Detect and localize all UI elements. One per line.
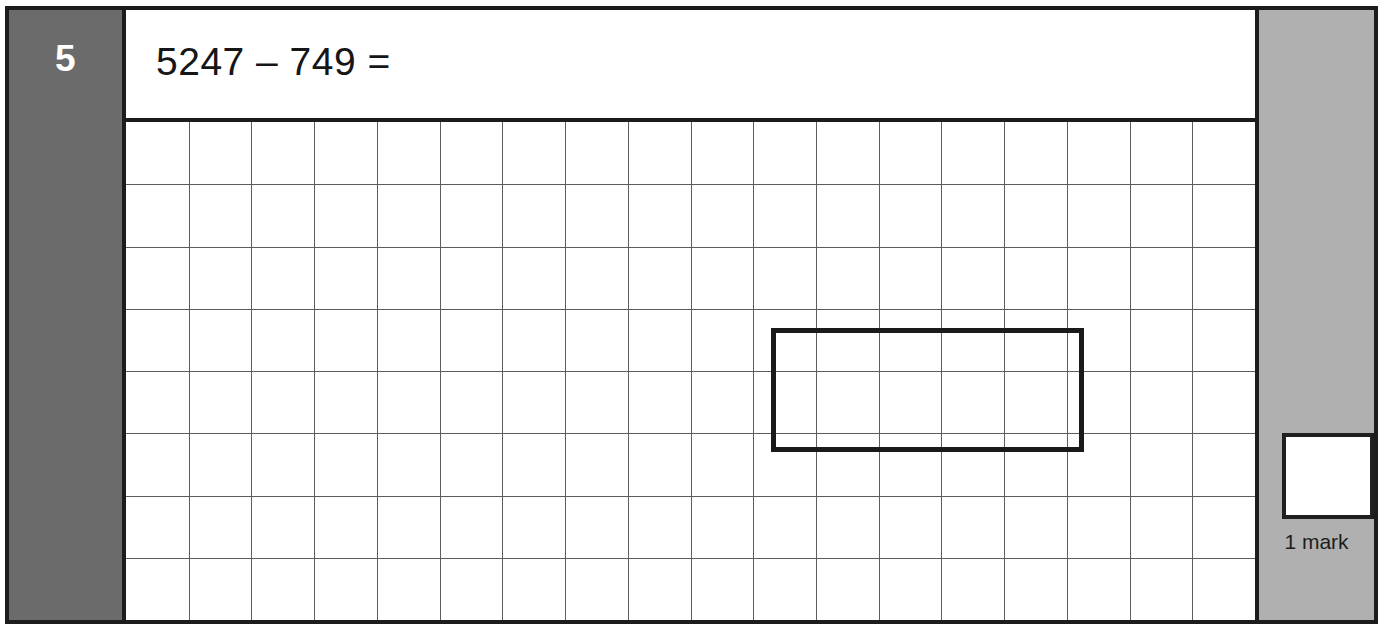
mark-label: 1 mark — [1259, 531, 1374, 552]
mark-box[interactable] — [1282, 433, 1374, 519]
answer-box[interactable] — [771, 328, 1084, 452]
mark-strip: 1 mark — [1255, 10, 1374, 620]
grid-line-horizontal — [126, 309, 1255, 310]
grid-line-horizontal — [126, 371, 1255, 372]
grid-line-horizontal — [126, 433, 1255, 434]
question-frame: 5 5247 – 749 = 1 mark — [5, 6, 1378, 624]
question-number: 5 — [9, 40, 122, 77]
question-text: 5247 – 749 = — [156, 40, 391, 84]
grid-line-horizontal — [126, 558, 1255, 559]
grid-line-horizontal — [126, 247, 1255, 248]
question-header: 5247 – 749 = — [126, 10, 1255, 122]
grid-line-horizontal — [126, 496, 1255, 497]
grid-line-horizontal — [126, 184, 1255, 185]
working-out-grid[interactable] — [126, 122, 1255, 620]
scanned-exam-page: 5 5247 – 749 = 1 mark — [0, 0, 1388, 636]
question-number-strip: 5 — [9, 10, 126, 620]
